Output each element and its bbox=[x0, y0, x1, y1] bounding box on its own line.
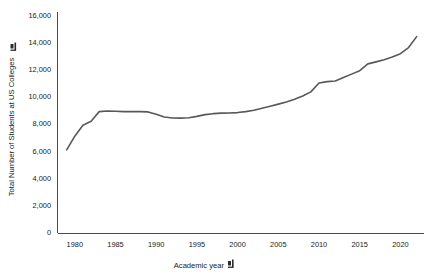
y-tick-label: 4,000 bbox=[33, 174, 52, 183]
x-tick-label: 1985 bbox=[107, 240, 123, 249]
y-axis-title: Total Number of Students at US Colleges bbox=[7, 58, 16, 197]
y-tick-label: 0 bbox=[47, 228, 51, 237]
x-tick-label: 2010 bbox=[311, 240, 327, 249]
y-tick-labels: 0 2,000 4,000 6,000 8,000 10,000 12,000 … bbox=[28, 11, 51, 238]
y-tick-label: 2,000 bbox=[33, 201, 52, 210]
x-tick-label: 2000 bbox=[229, 240, 245, 249]
x-tick-labels: 1980 1985 1990 1995 2000 2005 2010 2015 … bbox=[67, 240, 409, 249]
y-tick-label: 8,000 bbox=[33, 119, 52, 128]
y-tick-label: 14,000 bbox=[28, 38, 51, 47]
line-chart: Total Number of Students at US Colleges … bbox=[0, 0, 430, 278]
x-tick-label: 2020 bbox=[392, 240, 408, 249]
y-tick-label: 12,000 bbox=[28, 65, 51, 74]
x-axis-title: Academic year bbox=[174, 261, 225, 270]
data-series-line bbox=[67, 37, 417, 150]
x-tick-label: 2015 bbox=[351, 240, 367, 249]
x-tick-label: 2005 bbox=[270, 240, 286, 249]
x-tick-label: 1995 bbox=[189, 240, 205, 249]
chart-container: Total Number of Students at US Colleges … bbox=[0, 0, 430, 278]
x-axis-sort-icon[interactable] bbox=[228, 260, 234, 268]
y-tick-label: 6,000 bbox=[33, 147, 52, 156]
y-tick-label: 10,000 bbox=[28, 92, 51, 101]
y-tick-label: 16,000 bbox=[28, 11, 51, 20]
x-tick-label: 1990 bbox=[148, 240, 164, 249]
y-axis-sort-icon[interactable] bbox=[11, 43, 17, 51]
x-tick-label: 1980 bbox=[67, 240, 83, 249]
